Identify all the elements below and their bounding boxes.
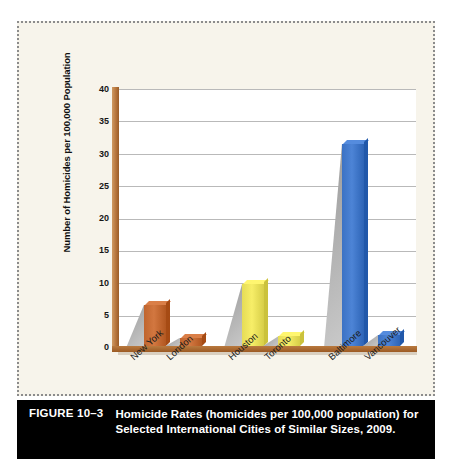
y-tick-label: 10 [83, 279, 109, 288]
y-tick-label: 5 [83, 311, 109, 320]
y-tick-label: 15 [83, 246, 109, 255]
bar-front-face [342, 144, 364, 348]
figure-number-label: FIGURE 10–3 [29, 407, 103, 419]
plot-area [118, 89, 416, 348]
y-tick-label: 25 [83, 182, 109, 191]
bar-side-face [300, 330, 304, 346]
y-axis-ticks: 0510152025303540 [79, 23, 109, 394]
y-tick-label: 30 [83, 150, 109, 159]
bar-side-face [364, 138, 368, 346]
y-tick-label: 0 [83, 343, 109, 352]
bar-side-face [264, 278, 268, 346]
bars-layer [118, 89, 416, 348]
y-axis-title: Number of Homicides per 100,000 Populati… [61, 43, 72, 263]
y-tick-label: 35 [83, 117, 109, 126]
x-axis-ticks: New YorkLondonHoustonTorontoBaltimoreVan… [118, 350, 416, 394]
bar-side-face [202, 332, 206, 346]
bar-baltimore [342, 144, 364, 348]
bar-depth-shadow [224, 284, 242, 348]
chart-canvas: 0510152025303540 Number of Homicides per… [19, 23, 433, 394]
figure-caption-bar: FIGURE 10–3 Homicide Rates (homicides pe… [17, 400, 435, 459]
figure-caption-text: Homicide Rates (homicides per 100,000 po… [115, 407, 425, 436]
y-tick-label: 20 [83, 214, 109, 223]
bar-depth-shadow [324, 144, 342, 348]
bar-side-face [166, 299, 170, 346]
y-axis-line [112, 87, 119, 350]
y-tick-label: 40 [83, 85, 109, 94]
